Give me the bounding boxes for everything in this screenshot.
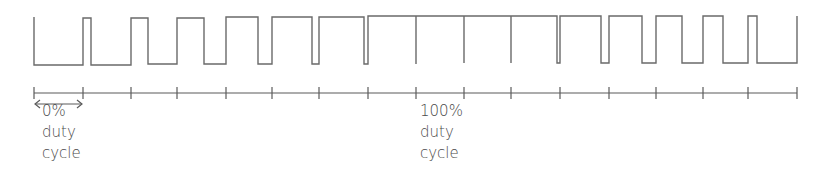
label-hundred-cycle: cycle: [420, 143, 463, 164]
time-axis: [34, 87, 797, 99]
label-zero-percent: 0%: [42, 101, 81, 122]
label-hundred-duty-cycle: 100% duty cycle: [420, 101, 463, 164]
label-zero-cycle: cycle: [42, 143, 81, 164]
pwm-diagram: [0, 0, 832, 182]
pwm-waveform: [34, 16, 797, 65]
label-hundred-duty: duty: [420, 122, 463, 143]
label-zero-duty-cycle: 0% duty cycle: [42, 101, 81, 164]
label-hundred-percent: 100%: [420, 101, 463, 122]
label-zero-duty: duty: [42, 122, 81, 143]
